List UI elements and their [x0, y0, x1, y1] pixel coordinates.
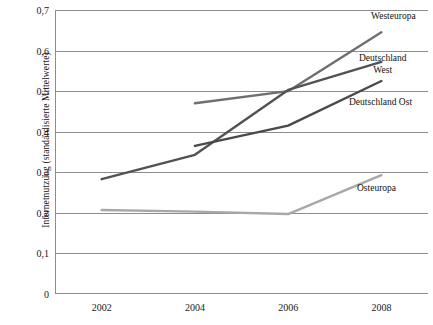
- y-tick-label: 0,1: [3, 248, 49, 259]
- x-tick-label: 2002: [72, 302, 132, 313]
- series-label-deutschland-west: Deutschland West: [359, 52, 407, 76]
- y-tick-label: 0,5: [3, 86, 49, 97]
- y-tick-label: 0,2: [3, 207, 49, 218]
- series-line-osteuropa: [102, 175, 382, 214]
- series-line-deutschland-west: [102, 62, 382, 179]
- x-tick-label: 2008: [351, 302, 411, 313]
- line-chart: Internetnutzung (standardisierte Mittelw…: [0, 0, 433, 325]
- series-label-westeuropa: Westeuropa: [371, 10, 416, 22]
- series-line-westeuropa: [195, 32, 382, 103]
- y-axis-tick-labels: 0,70,60,50,40,30,20,10: [0, 10, 49, 294]
- y-tick-label: 0,3: [3, 167, 49, 178]
- y-tick-label: 0,4: [3, 126, 49, 137]
- series-label-deutschland-ost: Deutschland Ost: [349, 96, 412, 108]
- y-tick-label: 0: [3, 289, 49, 300]
- x-tick-label: 2006: [258, 302, 318, 313]
- y-tick-label: 0,6: [3, 45, 49, 56]
- series-label-osteuropa: Osteuropa: [357, 182, 396, 194]
- y-tick-label: 0,7: [3, 5, 49, 16]
- x-tick-label: 2004: [165, 302, 225, 313]
